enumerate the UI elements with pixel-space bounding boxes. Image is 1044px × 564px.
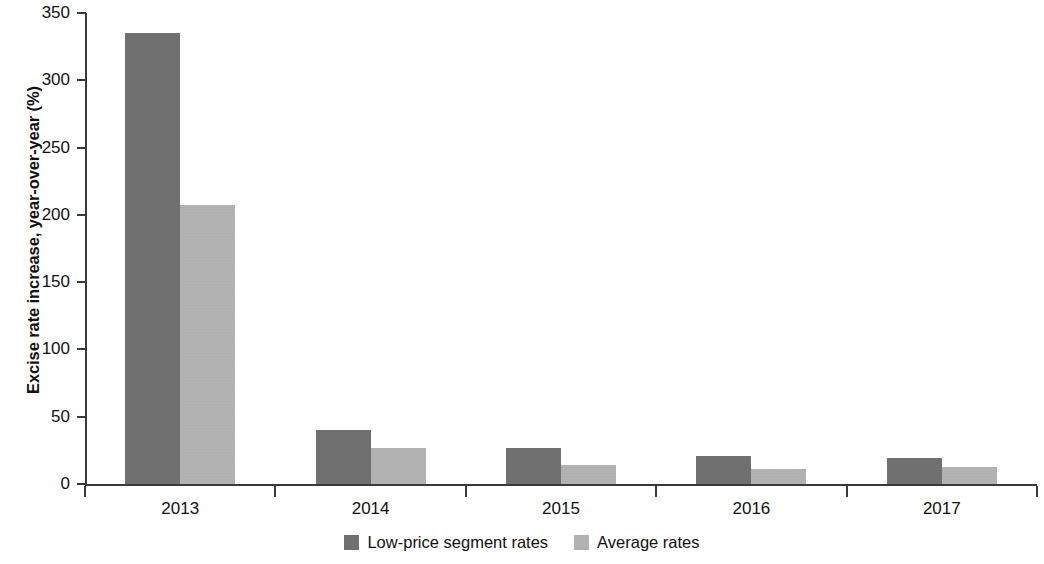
x-axis-tick-mark [655,486,657,497]
legend-label: Average rates [597,534,699,551]
bar-texture [180,205,235,484]
bar [751,469,806,484]
bar-texture [506,448,561,484]
x-axis-tick-label: 2013 [120,500,240,519]
bar-texture [371,448,426,484]
x-axis-tick-mark [84,486,86,497]
legend-entry: Average rates [574,534,699,551]
bar-texture [696,456,751,484]
x-axis-tick-mark [274,486,276,497]
bars-layer [0,0,1044,484]
bar-texture [751,469,806,484]
x-axis-tick-label: 2017 [882,500,1002,519]
x-axis-tick-label: 2016 [691,500,811,519]
bar [125,33,180,484]
x-axis-tick-label: 2014 [311,500,431,519]
x-axis-tick-label: 2015 [501,500,621,519]
legend-swatch [344,535,359,550]
bar [942,467,997,484]
bar [371,448,426,484]
legend-swatch-texture [574,535,589,550]
legend-entry: Low-price segment rates [344,534,548,551]
bar [696,456,751,484]
legend-swatch [574,535,589,550]
bar-texture [125,33,180,484]
bar [561,465,616,484]
x-axis-tick-mark [465,486,467,497]
x-axis-line [85,484,1037,486]
x-axis-tick-mark [846,486,848,497]
bar [506,448,561,484]
bar [887,458,942,484]
bar-texture [887,458,942,484]
legend-swatch-texture [344,535,359,550]
bar [180,205,235,484]
bar-chart-figure: Excise rate increase, year-over-year (%)… [0,0,1044,564]
legend-label: Low-price segment rates [367,534,548,551]
x-axis-tick-mark [1036,486,1038,497]
bar-texture [561,465,616,484]
chart-legend: Low-price segment ratesAverage rates [0,534,1044,551]
bar [316,430,371,484]
bar-texture [316,430,371,484]
bar-texture [942,467,997,484]
